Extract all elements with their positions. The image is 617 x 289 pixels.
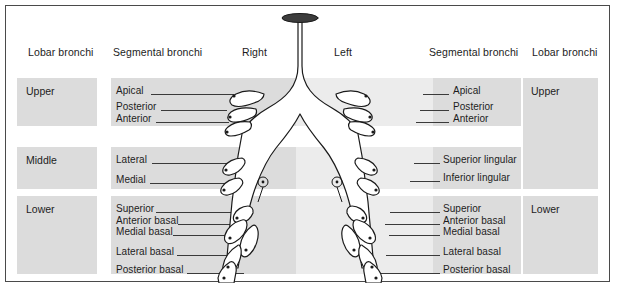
bronchial-tree-illustration [6, 6, 611, 283]
lumen-dot-right-anterior [225, 130, 228, 133]
lumen-dot-left-posterior-basal [374, 276, 377, 279]
lumen-dot-left-anterior [371, 130, 374, 133]
junction-marker-left-stem [337, 187, 342, 202]
branch-left-apical [336, 91, 370, 106]
lumen-dot-right-medial [222, 188, 225, 191]
branch-left-posterior-basal [364, 262, 382, 283]
junction-marker-right-center [262, 181, 265, 184]
lumen-dot-right-medial-basal [244, 248, 247, 251]
lumen-dot-right-posterior [228, 115, 231, 118]
branch-right-posterior-basal [218, 262, 236, 283]
lumen-dot-right-apical [232, 94, 235, 97]
branch-right-apical [230, 91, 264, 106]
lumen-dot-left-superior-lingular [372, 168, 375, 171]
lumen-dot-right-lateral [224, 168, 227, 171]
lumen-dot-left-lateral-basal [370, 265, 373, 268]
lumen-dot-left-apical [364, 94, 367, 97]
lumen-dot-right-superior [235, 216, 238, 219]
lumen-dot-left-inferior-lingular [374, 188, 377, 191]
lumen-dot-left-medial-basal [352, 248, 355, 251]
lumen-dot-right-posterior-basal [222, 276, 225, 279]
bronchial-tree-figure: Lobar bronchi Segmental bronchi Right Le… [0, 0, 617, 289]
lumen-dot-left-posterior [368, 115, 371, 118]
lumen-dot-left-anterior-basal [368, 236, 371, 239]
lumen-dot-right-lateral-basal [226, 265, 229, 268]
trachea-lumen [282, 14, 318, 23]
figure-frame: Lobar bronchi Segmental bronchi Right Le… [5, 5, 610, 282]
junction-marker-group [258, 177, 342, 202]
lumen-dot-right-anterior-basal [228, 236, 231, 239]
junction-marker-right-stem [258, 187, 263, 202]
junction-marker-left-center [336, 181, 339, 184]
lumen-dot-left-superior [361, 216, 364, 219]
